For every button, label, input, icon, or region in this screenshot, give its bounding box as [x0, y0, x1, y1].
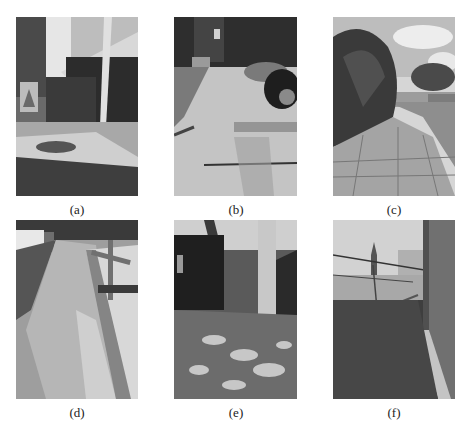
sidewalk-parked-car-image: [174, 220, 297, 399]
panel-label-b: (b): [175, 202, 297, 218]
sidewalk-planters-image: [16, 220, 138, 399]
panel-label-f: (f): [333, 405, 455, 421]
panel-label-d: (d): [16, 405, 138, 421]
photo-panel-a: [16, 17, 138, 196]
photo-panel-b: [174, 17, 297, 196]
sidewalk-scooters-image: [16, 17, 138, 196]
sidewalk-bushes-image: [333, 17, 455, 196]
panel-label-e: (e): [175, 405, 297, 421]
photo-panel-d: [16, 220, 138, 399]
photo-panel-f: [333, 220, 455, 399]
photo-panel-c: [333, 17, 455, 196]
photo-panel-e: [174, 220, 297, 399]
panel-label-a: (a): [16, 202, 138, 218]
sidewalk-cars-image: [174, 17, 297, 196]
sidewalk-construction-image: [333, 220, 455, 399]
panel-label-c: (c): [333, 202, 455, 218]
